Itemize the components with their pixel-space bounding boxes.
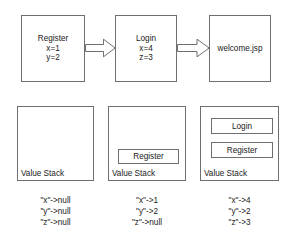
flow-node-register-title: Register (38, 34, 69, 44)
diagram-canvas: Register x=1 y=2 Login x=4 z=3 welcome.j… (0, 0, 291, 241)
value-stack-label: Value Stack (204, 169, 247, 178)
annotation-line-y: "y"->2 (200, 207, 279, 218)
arrow-register-to-login (85, 38, 116, 58)
block-arrow-icon (85, 38, 116, 58)
block-arrow-icon (177, 38, 210, 58)
stack-frame-login: Login (211, 118, 273, 134)
value-stack-with-login-and-register: Login Register Value Stack (200, 106, 279, 181)
flow-node-welcome-jsp-title: welcome.jsp (217, 44, 262, 54)
annotation-line-z: "z"->null (108, 218, 186, 229)
annotation-stack-2: "x"->1 "y"->2 "z"->null (108, 196, 186, 229)
value-stack-label: Value Stack (21, 169, 64, 178)
stack-frame-register: Register (118, 149, 179, 164)
flow-node-welcome-jsp: welcome.jsp (209, 15, 271, 82)
stack-frame-register-label: Register (133, 152, 164, 161)
flow-node-register-param-y: y=2 (46, 53, 59, 63)
value-stack-with-register: Register Value Stack (108, 106, 186, 181)
annotation-stack-1: "x"->null "y"->null "z"->null (17, 196, 94, 229)
annotation-line-x: "x"->1 (108, 196, 186, 207)
stack-frame-login-label: Login (232, 122, 252, 131)
annotation-line-y: "y"->2 (108, 207, 186, 218)
stack-frame-register-label: Register (227, 146, 258, 155)
annotation-line-z: "z"->null (17, 218, 94, 229)
arrow-login-to-welcome (177, 38, 210, 58)
flow-node-register-param-x: x=1 (46, 44, 59, 54)
annotation-line-x: "x"->4 (200, 196, 279, 207)
flow-node-login: Login x=4 z=3 (115, 15, 177, 82)
value-stack-empty: Value Stack (17, 106, 94, 181)
value-stack-label: Value Stack (112, 169, 155, 178)
annotation-line-x: "x"->null (17, 196, 94, 207)
flow-node-login-title: Login (136, 34, 156, 44)
annotation-line-z: "z"->3 (200, 218, 279, 229)
flow-node-login-param-x: x=4 (139, 44, 152, 54)
annotation-stack-3: "x"->4 "y"->2 "z"->3 (200, 196, 279, 229)
annotation-line-y: "y"->null (17, 207, 94, 218)
stack-frame-register: Register (211, 142, 273, 158)
flow-node-login-param-z: z=3 (139, 53, 152, 63)
flow-node-register: Register x=1 y=2 (21, 15, 85, 82)
